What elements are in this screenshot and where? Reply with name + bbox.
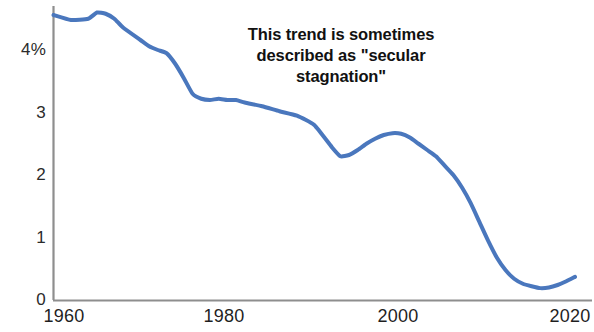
- x-tick-label-2020: 2020: [550, 307, 591, 325]
- y-tick-label-2: 2: [2, 166, 46, 183]
- y-tick-label-1: 1: [2, 229, 46, 246]
- annotation-line-3: stagnation": [206, 66, 476, 87]
- y-tick-label-3: 3: [2, 104, 46, 121]
- x-tick-label-1980: 1980: [204, 307, 245, 325]
- secular-stagnation-annotation: This trend is sometimes described as "se…: [206, 24, 476, 87]
- x-tick-label-1960: 1960: [44, 307, 85, 325]
- x-tick-label-2000: 2000: [378, 307, 419, 325]
- chart-figure: 4% 3 2 1 0 1960 1980 2000 2020 This tren…: [0, 0, 594, 332]
- y-tick-label-4: 4%: [2, 41, 46, 58]
- annotation-line-2: described as "secular: [206, 45, 476, 66]
- annotation-line-1: This trend is sometimes: [206, 24, 476, 45]
- y-tick-label-0: 0: [2, 291, 46, 308]
